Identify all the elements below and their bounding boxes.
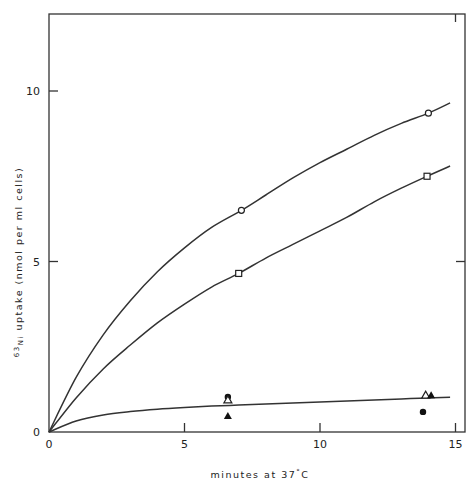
chart-canvas: 0510150510 minutes at 37°C 63Ni uptake (… <box>0 0 476 487</box>
y-tick-label: 5 <box>33 256 40 269</box>
marker-filled-circle <box>420 409 426 415</box>
fit-curves <box>49 103 450 432</box>
plot-frame <box>49 14 465 432</box>
marker-filled-triangle <box>224 412 232 419</box>
y-tick-label: 0 <box>33 426 40 439</box>
y-tick-label: 10 <box>26 85 40 98</box>
y-axis-label: 63Ni uptake (nmol per ml cells) <box>13 167 25 357</box>
x-tick-label: 10 <box>313 438 327 451</box>
x-axis-label: minutes at 37°C <box>211 468 310 480</box>
marker-open-circle <box>425 110 431 116</box>
plot-border <box>49 14 465 432</box>
x-tick-label: 15 <box>449 438 463 451</box>
marker-open-square <box>424 173 430 179</box>
x-tick-label: 0 <box>46 438 53 451</box>
x-tick-label: 5 <box>181 438 188 451</box>
axis-ticks: 0510150510 <box>26 14 465 451</box>
marker-open-square <box>236 270 242 276</box>
fit-curve-lower-fit <box>49 397 450 432</box>
marker-open-circle <box>238 207 244 213</box>
